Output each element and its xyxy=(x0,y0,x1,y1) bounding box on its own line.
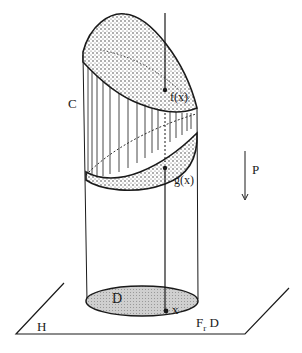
label-g: g(x) xyxy=(174,174,194,186)
label-f: f(x) xyxy=(170,91,188,103)
label-x: x xyxy=(172,303,179,316)
region-d xyxy=(86,286,198,316)
label-h: H xyxy=(37,320,46,333)
diagram-canvas: C f(x) g(x) P D x Fr D H xyxy=(0,0,302,353)
point-g xyxy=(163,166,167,170)
label-d: D xyxy=(112,292,122,306)
label-frontier-d: Fr D xyxy=(196,316,219,329)
point-f xyxy=(163,88,167,92)
point-x xyxy=(164,309,169,314)
label-c: C xyxy=(68,97,77,110)
label-p: P xyxy=(252,163,259,176)
